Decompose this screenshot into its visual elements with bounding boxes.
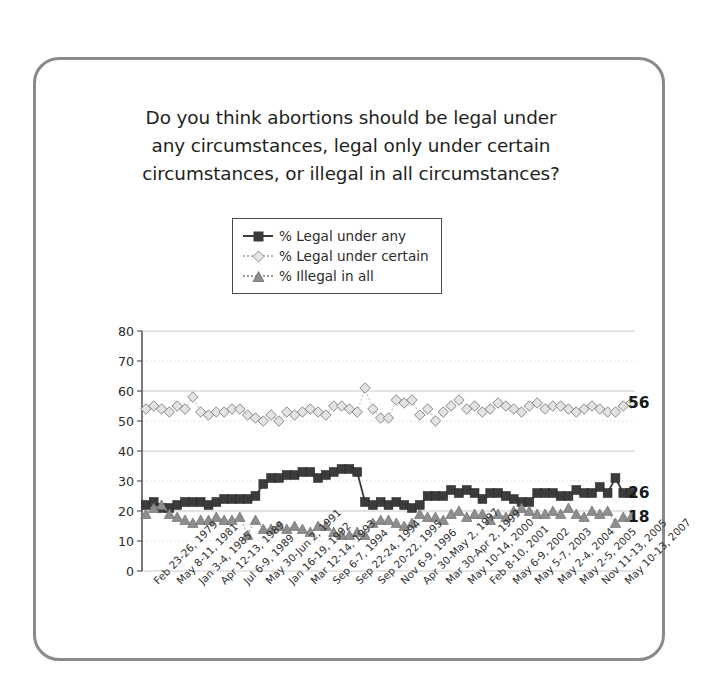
legend-label-legal-under-certain: % Legal under certain bbox=[279, 248, 429, 264]
y-axis-tick-label: 80 bbox=[118, 325, 134, 339]
legend-label-legal-under-any: % Legal under any bbox=[279, 228, 406, 244]
y-axis-tick-label: 30 bbox=[118, 474, 134, 489]
chart-title: Do you think abortions should be legal u… bbox=[91, 104, 611, 188]
legend-marker-filled-triangle bbox=[241, 268, 275, 284]
legend-item-legal-under-certain: % Legal under certain bbox=[241, 246, 429, 266]
chart-title-line-1: Do you think abortions should be legal u… bbox=[91, 104, 611, 132]
chart-svg: 01020304050607080 bbox=[96, 325, 641, 615]
series-open-diamond bbox=[141, 383, 637, 426]
series-end-labels: 56 26 18 bbox=[628, 325, 698, 545]
chart-title-line-3: circumstances, or illegal in all circums… bbox=[91, 160, 611, 188]
chart-card-frame: Do you think abortions should be legal u… bbox=[33, 57, 665, 661]
end-label-illegal-in-all: 18 bbox=[628, 508, 650, 526]
y-axis-tick-label: 50 bbox=[118, 414, 134, 429]
y-axis-tick-label: 40 bbox=[118, 444, 134, 459]
legend-item-illegal-in-all: % Illegal in all bbox=[241, 266, 429, 286]
legend-marker-filled-square bbox=[241, 228, 275, 244]
page-root: Do you think abortions should be legal u… bbox=[0, 0, 707, 695]
end-label-legal-under-certain: 56 bbox=[628, 394, 650, 412]
series-filled-square bbox=[142, 465, 636, 513]
legend-item-legal-under-any: % Legal under any bbox=[241, 226, 429, 246]
end-label-legal-under-any: 26 bbox=[628, 484, 650, 502]
legend-marker-open-diamond bbox=[241, 248, 275, 264]
y-axis-tick-label: 70 bbox=[118, 354, 134, 369]
y-axis-tick-label: 60 bbox=[118, 384, 134, 399]
y-axis-tick-label: 20 bbox=[118, 504, 134, 519]
chart-legend: % Legal under any % Legal under certain bbox=[232, 218, 442, 294]
chart-plot-area: 01020304050607080 bbox=[96, 325, 641, 615]
legend-label-illegal-in-all: % Illegal in all bbox=[279, 268, 374, 284]
y-axis-tick-label: 10 bbox=[118, 534, 134, 549]
chart-title-line-2: any circumstances, legal only under cert… bbox=[91, 132, 611, 160]
y-axis-tick-label: 0 bbox=[126, 564, 134, 579]
